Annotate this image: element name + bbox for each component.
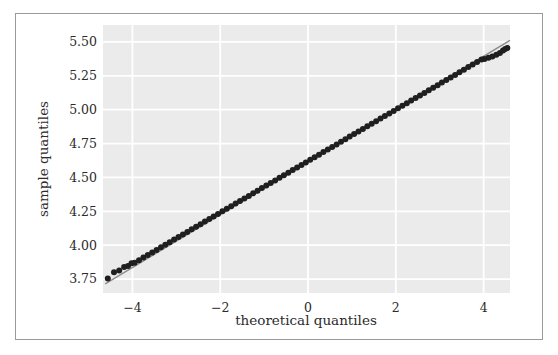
x-tick-label: −2 xyxy=(211,300,229,315)
qq-plot-chart: −4−20243.754.004.254.504.755.005.255.50 … xyxy=(0,0,558,355)
y-tick-label: 5.50 xyxy=(69,34,97,49)
y-axis-label: sample quantiles xyxy=(35,101,51,217)
data-point xyxy=(504,45,510,51)
data-point xyxy=(111,269,117,275)
plot-area-background xyxy=(103,25,510,293)
x-tick-label: 2 xyxy=(392,300,400,315)
y-tick-label: 4.25 xyxy=(69,204,97,219)
data-point xyxy=(105,276,111,282)
y-tick-label: 3.75 xyxy=(69,271,97,286)
y-tick-label: 4.75 xyxy=(69,136,97,151)
y-tick-label: 4.50 xyxy=(69,170,97,185)
y-tick-label: 5.00 xyxy=(69,102,97,117)
plot-background-layer xyxy=(103,25,510,293)
x-tick-label: 4 xyxy=(480,300,488,315)
x-tick-label: −4 xyxy=(123,300,141,315)
qq-plot-figure: −4−20243.754.004.254.504.755.005.255.50 … xyxy=(0,0,558,355)
y-tick-label: 4.00 xyxy=(69,238,97,253)
x-axis-label: theoretical quantiles xyxy=(235,312,377,328)
y-tick-label: 5.25 xyxy=(69,68,97,83)
data-point xyxy=(116,268,122,274)
